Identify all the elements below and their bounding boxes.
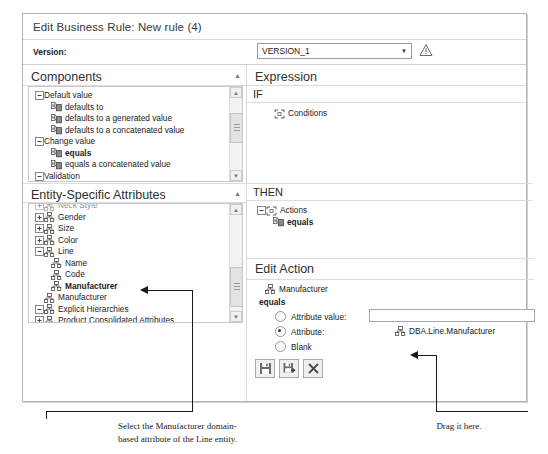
attribute-icon (51, 281, 62, 291)
expand-plus-icon[interactable] (35, 236, 44, 245)
tree-node[interactable]: Conditions (265, 108, 526, 120)
components-scrollbar[interactable]: ▲ ▼ (229, 87, 242, 181)
collapse-minus-icon[interactable] (35, 137, 44, 146)
attribute-value-input[interactable] (369, 309, 535, 322)
tree-node[interactable]: Validation (35, 171, 228, 182)
annotation-drag-it-here: Drag it here. (399, 420, 519, 433)
tree-node[interactable]: defaults to (35, 102, 228, 114)
tree-node[interactable]: Change value (35, 136, 228, 148)
tree-node[interactable]: defaults to a generated value (35, 113, 228, 125)
annotation-select-manufacturer-line2: based attribute of the Line entity. (118, 433, 318, 446)
caret-up-icon[interactable]: ▲ (234, 190, 241, 197)
component-icon (273, 217, 284, 227)
edit-action-attribute-row: Manufacturer (247, 284, 526, 294)
tree-node-label: Explicit Hierarchies (58, 304, 129, 316)
expression-section-header: Expression (247, 66, 526, 86)
attribute-icon (44, 293, 55, 303)
tree-node[interactable]: equals a concatenated value (35, 159, 228, 171)
tree-node[interactable]: Actions (257, 205, 313, 217)
tree-node-label: equals (287, 217, 313, 229)
expand-plus-icon[interactable] (35, 316, 44, 322)
tree-spacer (265, 109, 274, 118)
tree-node-label: equals (65, 148, 91, 160)
tree-node[interactable]: Neck Style (35, 204, 228, 212)
tree-node[interactable]: Size (35, 223, 228, 235)
tree-node-label: equals a concatenated value (65, 159, 171, 171)
tree-node[interactable]: defaults to a concatenated value (35, 125, 228, 137)
attribute-icon (44, 224, 55, 234)
option-attribute-row[interactable]: Attribute: DBA.Line.Manufacturer (247, 326, 526, 337)
expand-plus-icon[interactable] (35, 224, 44, 233)
edit-action-operator: equals (247, 297, 526, 307)
save-button[interactable] (255, 359, 275, 378)
tree-node-label: defaults to a generated value (65, 113, 172, 125)
scrollbar-thumb[interactable] (230, 113, 243, 143)
caret-up-icon[interactable]: ▲ (234, 72, 241, 79)
leader-right-arrow-shaft (418, 355, 437, 356)
tree-node[interactable]: Product Consolidated Attributes (35, 315, 228, 322)
radio-attribute-value[interactable] (275, 311, 286, 322)
tree-node[interactable]: equals (257, 217, 313, 229)
warning-triangle-icon (419, 43, 433, 57)
annotation-select-manufacturer-line1: Select the Manufacturer domain- (118, 420, 318, 433)
tree-node[interactable]: Color (35, 235, 228, 247)
chevron-down-icon[interactable]: ▼ (397, 44, 411, 58)
tree-node[interactable]: Manufacturer (35, 281, 228, 293)
attributes-title: Entity-Specific Attributes (31, 188, 166, 202)
tree-node[interactable]: Code (35, 269, 228, 281)
option-attribute-value-label: Attribute value: (291, 312, 346, 322)
leader-left-arrow-shaft (148, 290, 193, 291)
component-icon (51, 160, 62, 170)
tree-node[interactable]: Gender (35, 212, 228, 224)
tree-node-label: defaults to (65, 102, 103, 114)
component-icon (51, 125, 62, 135)
component-icon (51, 114, 62, 124)
attributes-tree[interactable]: Neck StyleGenderSizeColorLineNameCodeMan… (28, 203, 243, 323)
attribute-icon (44, 235, 55, 245)
radio-attribute[interactable] (275, 326, 286, 337)
scrollbar-thumb[interactable] (230, 267, 243, 307)
collapse-minus-icon[interactable] (35, 247, 44, 256)
option-blank-row[interactable]: Blank (247, 341, 526, 352)
expand-plus-icon[interactable] (35, 213, 44, 222)
version-select[interactable]: VERSION_1 ▼ (257, 43, 412, 59)
collapse-minus-icon[interactable] (257, 206, 266, 215)
tree-node[interactable]: Name (35, 258, 228, 270)
attribute-target-chip[interactable]: DBA.Line.Manufacturer (395, 326, 495, 336)
attribute-icon (44, 204, 55, 211)
tree-node-label: Code (65, 269, 85, 281)
page-title: Edit Business Rule: New rule (4) (33, 21, 202, 33)
edit-business-rule-window: Edit Business Rule: New rule (4) Version… (22, 13, 527, 402)
attribute-icon (44, 247, 55, 257)
collapse-minus-icon[interactable] (35, 172, 44, 181)
attribute-icon (51, 270, 62, 280)
actions-icon (266, 206, 277, 216)
attributes-section-header[interactable]: Entity-Specific Attributes ▲ (23, 183, 246, 203)
edit-action-button-row (247, 359, 526, 378)
tree-node[interactable]: Line (35, 246, 228, 258)
arrow-down-icon[interactable]: ▼ (230, 311, 242, 322)
tree-node[interactable]: Manufacturer (35, 292, 228, 304)
option-attribute-value-row[interactable]: Attribute value: (247, 311, 526, 322)
save-and-new-button[interactable] (279, 359, 299, 378)
expand-plus-icon[interactable] (35, 204, 44, 210)
annotation-select-manufacturer: Select the Manufacturer domain- based at… (118, 420, 318, 446)
arrow-down-icon[interactable]: ▼ (230, 170, 242, 181)
if-node-list[interactable]: Conditions (247, 103, 526, 120)
components-tree[interactable]: Default valuedefaults todefaults to a ge… (28, 86, 243, 182)
collapse-minus-icon[interactable] (35, 305, 44, 314)
arrow-up-icon[interactable]: ▲ (230, 87, 242, 98)
collapse-minus-icon[interactable] (35, 91, 44, 100)
tree-node[interactable]: Explicit Hierarchies (35, 304, 228, 316)
component-icon (51, 148, 62, 158)
attribute-icon (44, 212, 55, 222)
tree-node[interactable]: equals (35, 148, 228, 160)
cancel-button[interactable] (303, 359, 323, 378)
leader-right-horizontal-bottom (436, 411, 528, 412)
then-node-list[interactable]: Actionsequals (247, 205, 313, 228)
radio-blank[interactable] (275, 341, 286, 352)
arrow-up-icon[interactable]: ▲ (230, 204, 242, 215)
attributes-scrollbar[interactable]: ▲ ▼ (229, 204, 242, 322)
tree-node[interactable]: Default value (35, 90, 228, 102)
components-section-header[interactable]: Components ▲ (23, 66, 246, 86)
